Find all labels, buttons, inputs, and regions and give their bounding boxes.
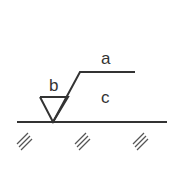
label-c: c	[101, 89, 110, 106]
hatch-right	[133, 133, 148, 150]
surface-hatching	[17, 133, 148, 150]
roughness-symbol-figure	[0, 0, 179, 169]
hatch-middle	[75, 133, 90, 150]
label-b: b	[49, 77, 58, 94]
label-a: a	[101, 50, 110, 67]
hatch-left	[17, 133, 32, 150]
